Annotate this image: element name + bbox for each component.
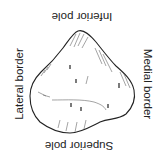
bone-illustration	[0, 0, 159, 155]
hatching	[38, 33, 130, 132]
bone-outline	[30, 31, 135, 133]
